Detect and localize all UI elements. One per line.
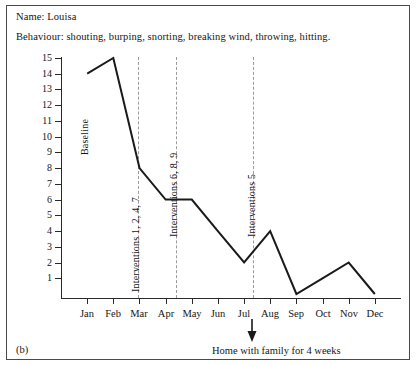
- bottom-caption: Home with family for 4 weeks: [212, 345, 341, 356]
- figure-page: Name: Louisa Behaviour: shouting, burpin…: [0, 0, 416, 366]
- down-arrow-icon: [0, 0, 416, 366]
- figure-label: (b): [16, 344, 28, 355]
